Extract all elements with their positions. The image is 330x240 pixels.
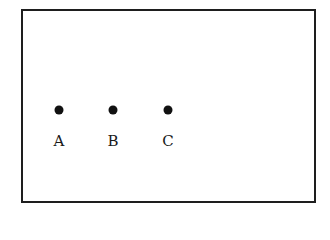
label-c: C [162,134,173,149]
label-a: A [54,134,65,149]
dot-b-icon [109,106,118,115]
dot-c-icon [164,106,173,115]
dot-a-icon [55,106,64,115]
label-b: B [107,134,118,149]
